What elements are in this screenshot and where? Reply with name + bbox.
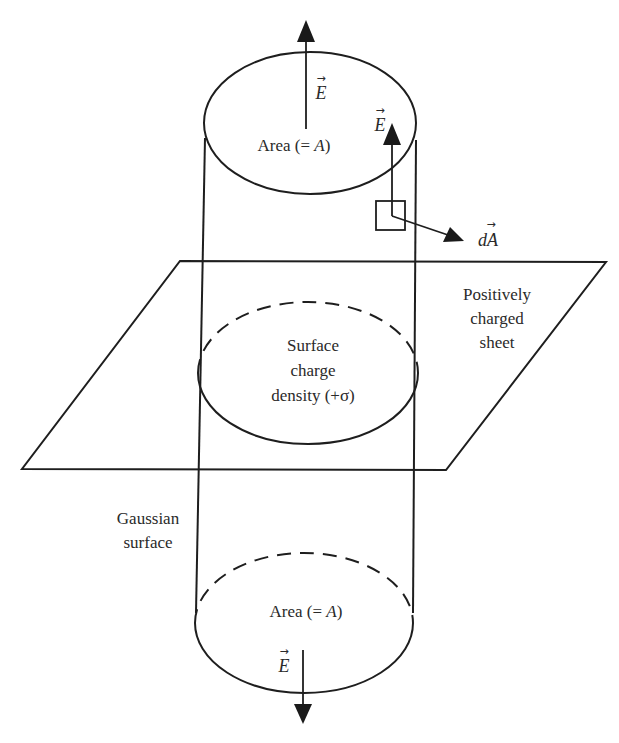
svg-text:dA: dA (478, 230, 499, 250)
diagram-canvas: Area (= A) Area (= A) Positively charged… (0, 0, 619, 743)
area-element-patch (376, 201, 405, 230)
gaussian-label-line-1: Gaussian (117, 509, 180, 528)
sheet-label-line-1: Positively (463, 285, 532, 304)
e-top-label: → E (315, 72, 327, 103)
e-top-arrow-icon (297, 20, 315, 129)
surface-charge-line-2: charge (291, 361, 336, 380)
gaussian-label-line-2: surface (123, 533, 172, 552)
surface-charge-line-1: Surface (287, 336, 339, 355)
cylinder-right-side (413, 140, 416, 613)
sheet-label-line-3: sheet (480, 333, 515, 352)
svg-text:E: E (278, 656, 290, 676)
bottom-area-label: Area (= A) (270, 602, 343, 621)
gaussian-surface-label: Gaussian surface (117, 509, 180, 552)
e-bottom-arrow-icon (294, 650, 312, 724)
da-label: → dA (478, 218, 499, 250)
da-arrow-icon (392, 216, 464, 242)
svg-text:E: E (315, 83, 327, 103)
bottom-cap-visible-edge (195, 623, 413, 693)
sheet-label: Positively charged sheet (463, 285, 532, 352)
surface-charge-label: Surface charge density (+σ) (271, 336, 354, 405)
svg-text:E: E (374, 115, 386, 135)
sheet-label-line-2: charged (470, 309, 524, 328)
gauss-law-diagram: Area (= A) Area (= A) Positively charged… (0, 0, 619, 743)
e-side-arrow-icon (383, 123, 401, 216)
surface-charge-line-3: density (+σ) (271, 386, 354, 405)
top-area-label: Area (= A) (258, 136, 331, 155)
sheet-section-visible-edge (198, 373, 418, 444)
e-bottom-label: → E (278, 645, 290, 676)
e-side-label: → E (374, 104, 386, 135)
